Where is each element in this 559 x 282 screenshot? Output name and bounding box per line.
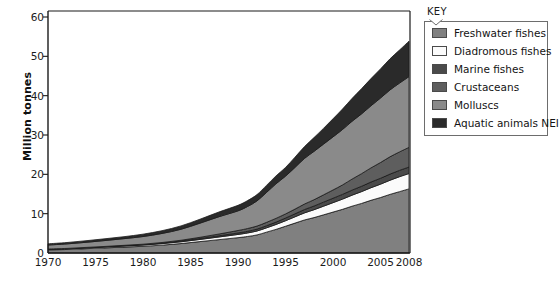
legend-swatch-icon bbox=[432, 82, 447, 92]
legend-swatch-icon bbox=[432, 46, 447, 56]
legend-title: KEY bbox=[427, 6, 447, 17]
legend-swatch-icon bbox=[432, 100, 447, 110]
legend-item-label: Freshwater fishes bbox=[454, 27, 546, 39]
legend-item-label: Marine fishes bbox=[454, 63, 524, 75]
legend-item-marine-fishes[interactable]: Marine fishes bbox=[425, 60, 547, 78]
legend-item-label: Aquatic animals NEI bbox=[454, 117, 559, 129]
legend-item-aquatic-animals-nei[interactable]: Aquatic animals NEI bbox=[425, 114, 547, 132]
legend-notch-icon bbox=[428, 18, 446, 26]
legend-item-crustaceans[interactable]: Crustaceans bbox=[425, 78, 547, 96]
legend-swatch-icon bbox=[432, 64, 447, 74]
legend-item-freshwater-fishes[interactable]: Freshwater fishes bbox=[425, 24, 547, 42]
legend-item-label: Molluscs bbox=[454, 99, 499, 111]
legend-swatch-icon bbox=[432, 28, 447, 38]
legend-swatch-icon bbox=[432, 118, 447, 128]
legend-item-label: Diadromous fishes bbox=[454, 45, 551, 57]
legend-item-label: Crustaceans bbox=[454, 81, 519, 93]
legend-box: Freshwater fishesDiadromous fishesMarine… bbox=[424, 21, 548, 136]
legend-item-diadromous-fishes[interactable]: Diadromous fishes bbox=[425, 42, 547, 60]
legend-item-molluscs[interactable]: Molluscs bbox=[425, 96, 547, 114]
